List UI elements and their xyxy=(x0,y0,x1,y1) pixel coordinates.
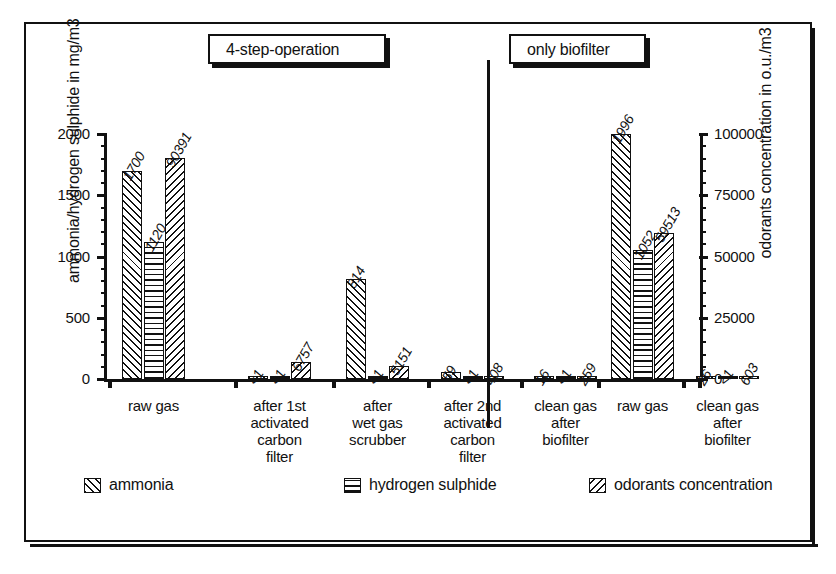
legend-label: ammonia xyxy=(109,476,173,494)
category-label-line: activated xyxy=(426,414,520,431)
legend-swatch-icon xyxy=(344,478,361,493)
y-tick-left-minor xyxy=(101,170,106,172)
bar-value-label: 90391 xyxy=(162,129,195,169)
y-tick-left-label: 2000 xyxy=(30,126,90,141)
legend: ammoniahydrogen sulphideodorants concent… xyxy=(44,464,794,504)
y-tick-left-minor xyxy=(101,341,106,343)
category-label-line: raw gas xyxy=(107,397,201,414)
bar-value-label: 59513 xyxy=(651,205,684,245)
y-tick-right-minor xyxy=(701,158,706,160)
y-tick-left-minor xyxy=(101,366,106,368)
y-axis-right-title: odorants concentration in o.u./m3 xyxy=(757,3,775,283)
bar xyxy=(122,171,142,379)
section-title-label: only biofilter xyxy=(527,41,610,58)
figure-frame-shadow-bottom xyxy=(30,544,818,547)
bar-value-label: <1 xyxy=(267,367,289,388)
y-tick-right-minor xyxy=(701,305,706,307)
category-label-line: clean gas xyxy=(681,397,775,414)
y-tick-right-minor xyxy=(701,231,706,233)
y-tick-right-label: 75000 xyxy=(714,187,784,202)
category-label-line: biofilter xyxy=(681,431,775,448)
legend-item[interactable]: ammonia xyxy=(84,476,173,494)
y-tick-right xyxy=(699,256,708,259)
section-title-shadow-2b xyxy=(646,38,650,68)
category-label-line: filter xyxy=(426,448,520,465)
bar-value-label: <1 xyxy=(245,367,267,388)
section-title-label: 4-step-operation xyxy=(226,41,339,58)
category-label: raw gas xyxy=(596,397,690,414)
y-tick-right-minor xyxy=(701,280,706,282)
y-tick-left-minor xyxy=(101,268,106,270)
category-label-line: after 1st xyxy=(233,397,327,414)
legend-swatch-icon xyxy=(84,478,101,493)
y-tick-right-minor xyxy=(701,292,706,294)
section-title-only-biofilter: only biofilter xyxy=(509,34,646,64)
category-label: clean gasafterbiofilter xyxy=(681,397,775,448)
bar xyxy=(165,158,185,379)
bar xyxy=(346,279,366,379)
category-label-line: filter xyxy=(233,448,327,465)
legend-item[interactable]: hydrogen sulphide xyxy=(344,476,496,494)
y-tick-left-minor xyxy=(101,280,106,282)
category-label: after 1stactivatedcarbonfilter xyxy=(233,397,327,465)
y-tick-right-label: 25000 xyxy=(714,310,784,325)
y-tick-right-minor xyxy=(701,170,706,172)
bar-value-label: <1 xyxy=(365,367,387,388)
bar-value-label: 1700 xyxy=(119,149,148,183)
bar xyxy=(611,134,631,379)
legend-label: odorants concentration xyxy=(614,476,772,494)
section-title-shadow-1 xyxy=(212,64,390,68)
bar xyxy=(654,233,674,379)
y-tick-left-label: 1500 xyxy=(30,187,90,202)
x-tick xyxy=(234,379,238,388)
bar xyxy=(633,250,653,379)
category-label-line: carbon xyxy=(233,431,327,448)
category-label-line: biofilter xyxy=(519,431,613,448)
y-tick-right xyxy=(699,317,708,320)
y-tick-left-minor xyxy=(101,207,106,209)
x-tick xyxy=(108,379,112,388)
plot-area: 4-step-operation only biofilter ammonia/… xyxy=(26,24,814,544)
x-tick xyxy=(682,379,686,388)
category-label-line: activated xyxy=(233,414,327,431)
x-tick xyxy=(427,379,431,388)
y-tick-left-minor xyxy=(101,219,106,221)
y-tick-left-minor xyxy=(101,243,106,245)
y-tick-left xyxy=(97,133,106,136)
legend-label: hydrogen sulphide xyxy=(369,476,496,494)
category-label-line: wet gas xyxy=(331,414,425,431)
bar-value-label: <1 xyxy=(553,367,575,388)
category-label-line: scrubber xyxy=(331,431,425,448)
y-axis-left-title: ammonia/hydrogen sulphide in mg/m3 xyxy=(65,23,83,283)
y-tick-left-label: 0 xyxy=(30,371,90,386)
y-tick-left-minor xyxy=(101,145,106,147)
y-tick-right-minor xyxy=(701,341,706,343)
y-tick-left-minor xyxy=(101,354,106,356)
category-label-line: after 2nd xyxy=(426,397,520,414)
category-label-line: carbon xyxy=(426,431,520,448)
category-label-line: after xyxy=(519,414,613,431)
category-label: afterwet gasscrubber xyxy=(331,397,425,448)
section-title-4-step-operation: 4-step-operation xyxy=(208,34,386,64)
y-tick-left-minor xyxy=(101,158,106,160)
x-tick xyxy=(332,379,336,388)
bar-value-label: 408 xyxy=(481,361,506,388)
y-tick-left xyxy=(97,194,106,197)
y-tick-right-label: 100000 xyxy=(714,126,784,141)
y-tick-left xyxy=(97,256,106,259)
bar-value-label: 259 xyxy=(574,361,599,388)
legend-swatch-icon xyxy=(589,478,606,493)
x-tick xyxy=(520,379,524,388)
category-label: after 2ndactivatedcarbonfilter xyxy=(426,397,520,465)
y-tick-left-minor xyxy=(101,305,106,307)
legend-item[interactable]: odorants concentration xyxy=(589,476,772,494)
section-title-shadow-2 xyxy=(513,64,650,68)
y-tick-right-minor xyxy=(701,182,706,184)
y-tick-right xyxy=(699,133,708,136)
y-tick-left-minor xyxy=(101,231,106,233)
y-tick-left xyxy=(97,317,106,320)
y-tick-right-minor xyxy=(701,243,706,245)
y-tick-right-minor xyxy=(701,268,706,270)
x-axis xyxy=(104,379,703,382)
bar-value-label: 26 xyxy=(693,367,714,388)
